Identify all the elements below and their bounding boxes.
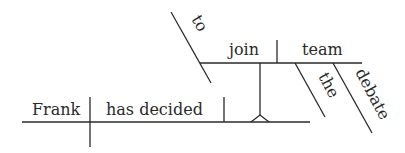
subject-word: Frank bbox=[32, 100, 81, 119]
phrase-object-word: team bbox=[302, 40, 343, 59]
modifier-debate-word: debate bbox=[351, 65, 394, 123]
to-word: to bbox=[188, 12, 212, 35]
verb-word: has decided bbox=[106, 100, 203, 119]
sentence-diagram: Frank has decided to join team the debat… bbox=[0, 0, 405, 153]
modifier-the-line bbox=[295, 63, 325, 117]
phrase-verb-word: join bbox=[227, 40, 259, 59]
pedestal-fork bbox=[251, 115, 269, 122]
